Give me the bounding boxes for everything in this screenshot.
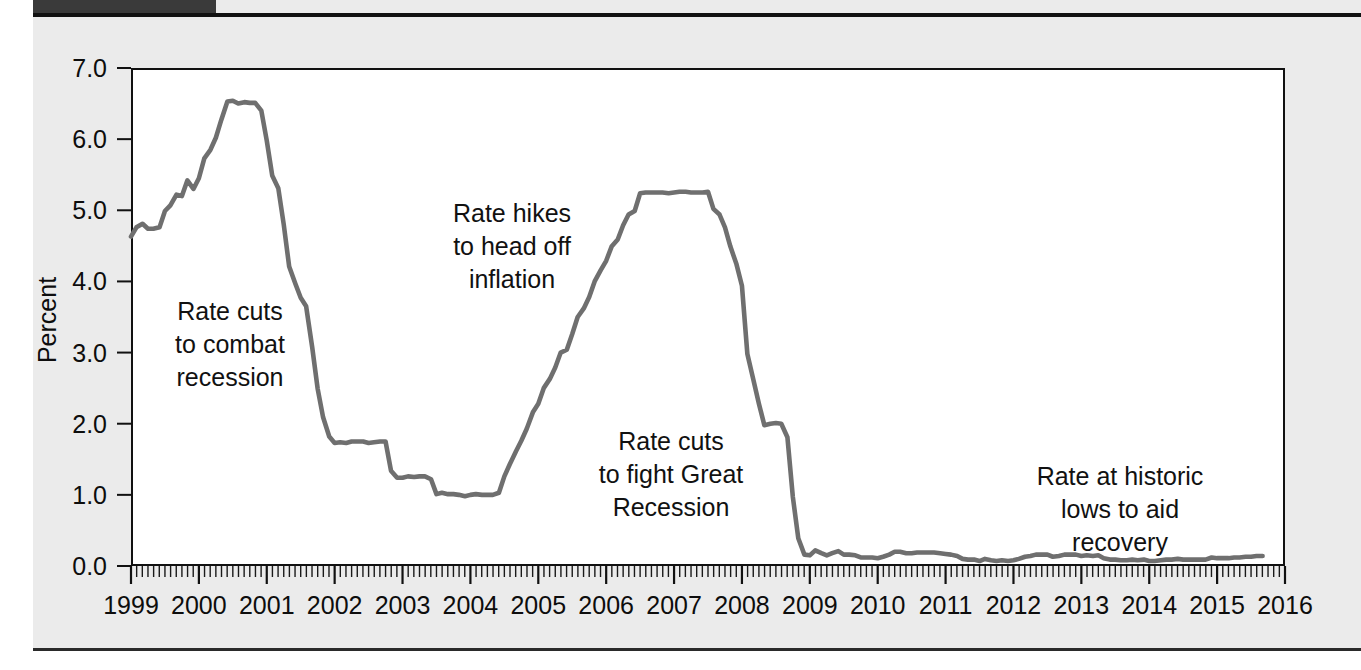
x-tick-label: 2013 [1054, 591, 1110, 619]
page-canvas: rate policy decisions are reviewed by th… [0, 0, 1361, 670]
y-tick-label: 0.0 [72, 552, 107, 580]
y-tick-label: 3.0 [72, 339, 107, 367]
annotation-line: lows to aid [1061, 495, 1179, 523]
annotation-line: Recession [613, 493, 730, 521]
x-tick-label: 2003 [375, 591, 431, 619]
y-tick-label: 4.0 [72, 267, 107, 295]
x-tick-label: 2006 [578, 591, 634, 619]
y-tick-label: 1.0 [72, 481, 107, 509]
x-tick-label: 2001 [239, 591, 295, 619]
y-tick-label: 5.0 [72, 196, 107, 224]
x-axis-minor-ticks [137, 566, 1280, 577]
chart-annotations: Rate cutsto combatrecessionRate hikesto … [175, 199, 1203, 556]
series-line [131, 101, 1263, 561]
x-tick-label: 2007 [646, 591, 702, 619]
x-tick-label: 2004 [443, 591, 499, 619]
annotation-line: Rate at historic [1037, 462, 1204, 490]
y-tick-label: 6.0 [72, 125, 107, 153]
x-tick-label: 2010 [850, 591, 906, 619]
annotation-line: to combat [175, 330, 285, 358]
annotation-rate-cuts-recession: Rate cutsto combatrecession [175, 297, 285, 391]
annotation-line: Rate cuts [618, 427, 724, 455]
annotation-line: inflation [469, 265, 555, 293]
y-tick-label: 7.0 [72, 54, 107, 82]
annotation-line: recession [177, 363, 284, 391]
x-axis-labels: 1999200020012002200320042005200620072008… [103, 591, 1313, 619]
y-axis-title: Percent [33, 277, 61, 363]
annotation-rate-historic-lows: Rate at historiclows to aidrecovery [1037, 462, 1204, 556]
annotation-line: to head off [453, 232, 571, 260]
x-tick-label: 2002 [307, 591, 363, 619]
x-tick-label: 2011 [919, 591, 973, 619]
x-tick-label: 1999 [103, 591, 159, 619]
x-tick-label: 2012 [986, 591, 1042, 619]
x-tick-label: 2014 [1121, 591, 1177, 619]
line-chart: 7.06.05.04.03.02.01.00.0 199920002001200… [0, 0, 1361, 670]
annotation-rate-cuts-great-recession: Rate cutsto fight GreatRecession [599, 427, 744, 521]
annotation-line: recovery [1072, 528, 1168, 556]
x-tick-label: 2015 [1189, 591, 1245, 619]
annotation-line: Rate hikes [453, 199, 571, 227]
y-tick-label: 2.0 [72, 410, 107, 438]
x-tick-label: 2008 [714, 591, 770, 619]
data-series [131, 101, 1263, 561]
annotation-rate-hikes-inflation: Rate hikesto head offinflation [453, 199, 571, 293]
annotation-line: Rate cuts [177, 297, 283, 325]
annotation-line: to fight Great [599, 460, 744, 488]
x-tick-label: 2000 [171, 591, 227, 619]
y-axis-labels: 7.06.05.04.03.02.01.00.0 [72, 54, 107, 580]
x-tick-label: 2005 [510, 591, 566, 619]
x-tick-label: 2016 [1257, 591, 1313, 619]
x-tick-label: 2009 [782, 591, 838, 619]
y-axis-ticks [117, 68, 131, 566]
